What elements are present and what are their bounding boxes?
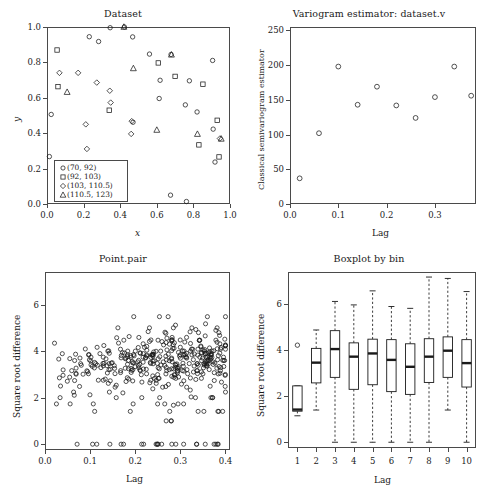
x-tick-mark: [230, 204, 231, 208]
data-point-circle: [213, 160, 217, 164]
data-point-circle: [65, 379, 69, 383]
x-tick-label: 0.4: [106, 210, 134, 220]
data-point-circle: [221, 409, 225, 413]
data-point-circle: [148, 381, 152, 385]
data-point-diamond: [83, 122, 89, 128]
data-point-circle: [116, 326, 120, 330]
data-point-diamond: [57, 70, 63, 76]
y-tick-mark: [286, 100, 290, 101]
data-point-diamond: [129, 118, 135, 124]
data-point-circle: [185, 385, 189, 389]
data-point-circle: [188, 388, 192, 392]
data-point-square: [55, 48, 59, 52]
x-tick-mark: [157, 204, 158, 208]
x-tick-label: 0.2: [121, 456, 149, 466]
box-iqr: [443, 337, 452, 377]
y-tick-mark: [43, 169, 47, 170]
y-tick-label: 0: [264, 199, 284, 209]
y-tick-mark: [41, 444, 45, 445]
x-tick-label: 0.4: [211, 456, 239, 466]
legend-symbol-triangle-icon: [58, 191, 67, 199]
x-tick-label: 0.2: [373, 210, 401, 220]
panel-boxplot: Boxplot by bin 0246 12345678910 Square r…: [246, 245, 492, 491]
y-tick-mark: [286, 169, 290, 170]
data-point-circle: [57, 357, 61, 361]
data-point-circle: [171, 403, 175, 407]
data-point-circle: [191, 358, 195, 362]
data-point-circle: [61, 373, 65, 377]
y-tick-mark: [286, 30, 290, 31]
y-tick-label: 2: [264, 391, 282, 401]
data-point-circle: [147, 52, 151, 56]
legend-label: (92, 103): [67, 172, 101, 181]
data-point-circle: [75, 442, 79, 446]
data-point-circle: [433, 95, 438, 100]
data-point-circle: [193, 396, 197, 400]
y-tick-mark: [284, 304, 288, 305]
y-tick-label: 250: [264, 25, 284, 35]
data-point-diamond: [60, 183, 65, 188]
variogram-xlabel: Lag: [372, 228, 389, 238]
box-iqr: [406, 344, 415, 395]
data-point-circle: [210, 58, 214, 62]
y-tick-label: 0.6: [21, 93, 41, 103]
data-point-square: [56, 84, 60, 88]
y-tick-mark: [43, 62, 47, 63]
dataset-ylabel: y: [12, 117, 22, 122]
y-tick-mark: [284, 442, 288, 443]
data-point-circle: [163, 330, 167, 334]
data-point-circle: [158, 78, 162, 82]
y-tick-mark: [43, 133, 47, 134]
data-point-circle: [166, 315, 170, 319]
y-tick-label: 150: [264, 95, 284, 105]
data-point-circle: [119, 442, 123, 446]
data-point-triangle: [64, 89, 70, 94]
data-point-circle: [130, 35, 134, 39]
variogram-scatter-layer: [290, 27, 476, 204]
data-point-circle: [212, 378, 216, 382]
data-point-square: [201, 82, 205, 86]
data-point-circle: [219, 380, 223, 384]
x-tick-mark: [84, 204, 85, 208]
data-point-circle: [170, 442, 174, 446]
data-point-circle: [96, 39, 100, 43]
data-point-circle: [57, 376, 61, 380]
legend-label: (110.5, 123): [67, 190, 113, 199]
figure-canvas: Dataset 0.00.20.40.60.81.0 0.00.20.40.60…: [0, 0, 492, 491]
box-iqr: [293, 386, 302, 411]
data-point-circle: [168, 193, 172, 197]
panel-pointpair: Point.pair 0246 0.00.10.20.30.4 Square r…: [0, 245, 246, 491]
data-point-diamond: [108, 100, 113, 106]
data-point-circle: [203, 322, 207, 326]
data-point-circle: [187, 362, 191, 366]
x-tick-mark: [448, 448, 449, 452]
data-point-circle: [203, 334, 207, 338]
y-tick-label: 200: [264, 60, 284, 70]
legend-symbol-diamond-icon: [58, 182, 67, 190]
x-tick-mark: [135, 450, 136, 454]
data-point-circle: [188, 330, 192, 334]
data-point-circle: [127, 334, 131, 338]
data-point-square: [60, 174, 64, 178]
data-point-circle: [188, 341, 192, 345]
data-point-circle: [147, 326, 151, 330]
data-point-circle: [195, 110, 199, 114]
box-iqr: [330, 331, 339, 378]
data-point-circle: [125, 362, 129, 366]
x-tick-label: 10: [453, 456, 481, 466]
y-tick-mark: [286, 135, 290, 136]
x-tick-label: 0.0: [33, 210, 61, 220]
data-point-circle: [156, 366, 160, 370]
data-point-circle: [452, 64, 457, 69]
data-point-circle: [196, 409, 200, 413]
boxplot-layer: [288, 272, 476, 448]
data-point-circle: [174, 442, 178, 446]
data-point-circle: [167, 368, 171, 372]
data-point-circle: [187, 79, 191, 83]
data-point-circle: [58, 396, 62, 400]
data-point-circle: [205, 315, 209, 319]
data-point-circle: [68, 402, 72, 406]
x-tick-mark: [373, 448, 374, 452]
data-point-circle: [107, 390, 111, 394]
data-point-circle: [189, 395, 193, 399]
